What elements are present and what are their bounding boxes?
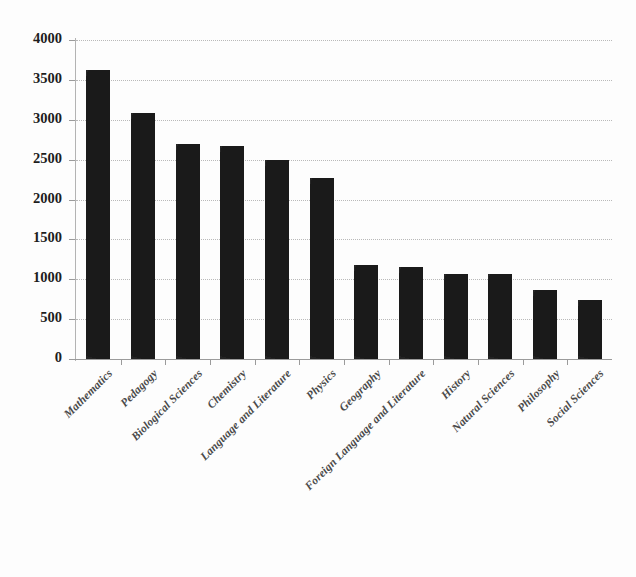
x-axis-tick-label: History [438,367,473,402]
bar [176,144,200,359]
bar [310,178,334,359]
x-axis-tick [165,359,166,365]
bar [533,290,557,359]
x-axis-tick [255,359,256,365]
bar [354,265,378,359]
plot-wrapper: 05001000150020002500300035004000 Mathema… [0,0,636,577]
x-axis-tick [433,359,434,365]
bar [86,70,110,359]
x-axis-tick [389,359,390,365]
x-axis-tick-label: Mathematics [62,367,116,421]
x-axis-tick [210,359,211,365]
x-axis-tick-label: Geography [336,367,383,414]
bar [265,160,289,359]
bar [399,267,423,359]
y-axis-tick-label: 1500 [0,229,62,246]
x-axis-tick-label: Language and Literature [198,367,294,463]
x-axis-tick [478,359,479,365]
y-axis-tick-label: 4000 [0,30,62,47]
y-axis-tick-label: 3000 [0,110,62,127]
bar [488,274,512,359]
bar [131,113,155,359]
y-axis-tick-label: 3500 [0,70,62,87]
bar [578,300,602,359]
bar-chart-figure: 05001000150020002500300035004000 Mathema… [0,0,636,577]
x-axis-tick-label: Chemistry [205,367,249,411]
x-axis-tick [299,359,300,365]
y-axis-tick-label: 2500 [0,150,62,167]
y-axis-tick-label: 500 [0,309,62,326]
x-axis-tick [523,359,524,365]
y-axis-tick-label: 2000 [0,190,62,207]
y-axis-tick-label: 1000 [0,269,62,286]
y-axis-tick-label: 0 [0,349,62,366]
x-axis-tick-label: Physics [304,367,339,402]
x-axis-tick [567,359,568,365]
x-axis-tick [121,359,122,365]
x-axis-tick [344,359,345,365]
x-axis-tick-label: Pedagogy [118,367,161,410]
bar [444,274,468,359]
bar [220,146,244,359]
bars-area [76,40,612,359]
